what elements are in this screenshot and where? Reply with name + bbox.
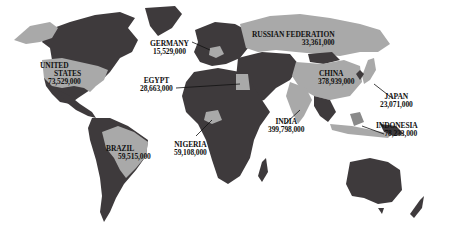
region-egypt bbox=[236, 74, 250, 90]
region-tasmania bbox=[378, 208, 384, 214]
label-russian-federation: RUSSIAN FEDERATION 33,361,000 bbox=[252, 31, 334, 47]
label-indonesia: INDONESIA 78,233,000 bbox=[376, 122, 418, 138]
region-new-zealand bbox=[410, 196, 424, 218]
region-borneo bbox=[350, 112, 364, 126]
region-japan bbox=[362, 58, 376, 84]
label-germany: GERMANY 15,529,000 bbox=[150, 40, 189, 56]
region-madagascar bbox=[258, 158, 268, 182]
label-japan: JAPAN 23,071,000 bbox=[380, 93, 413, 109]
region-australia bbox=[346, 158, 402, 204]
label-china: CHINA 378,939,000 bbox=[308, 70, 354, 86]
label-nigeria: NIGERIA 59,108,000 bbox=[174, 141, 207, 157]
label-united-states: UNITED STATES 73,529,000 bbox=[40, 62, 81, 86]
region-southeast-asia bbox=[314, 96, 336, 122]
label-india: INDIA 399,798,000 bbox=[268, 118, 304, 134]
label-brazil: BRAZIL 59,515,000 bbox=[106, 145, 151, 161]
label-egypt: EGYPT 28,663,000 bbox=[140, 77, 173, 93]
region-greenland bbox=[145, 6, 182, 36]
